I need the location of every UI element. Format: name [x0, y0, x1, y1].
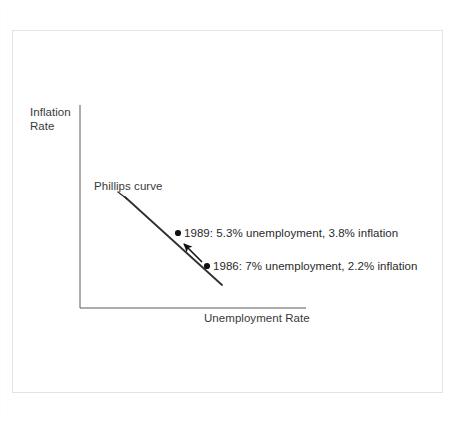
data-point-1989 [175, 230, 181, 236]
data-label-1986: 1986: 7% unemployment, 2.2% inflation [213, 260, 418, 272]
y-axis-label: Inflation Rate [30, 106, 71, 133]
phillips-curve-label: Phillips curve [94, 180, 162, 192]
phillips-curve-line [125, 197, 222, 285]
figure-root: Inflation Rate Unemployment Rate Phillip… [0, 0, 467, 422]
data-label-1989: 1989: 5.3% unemployment, 3.8% inflation [184, 227, 398, 239]
x-axis-label: Unemployment Rate [204, 312, 310, 326]
phillips-curve-leader-line [118, 192, 127, 199]
phillips-curve-plot [0, 0, 467, 422]
data-point-1986 [204, 263, 210, 269]
